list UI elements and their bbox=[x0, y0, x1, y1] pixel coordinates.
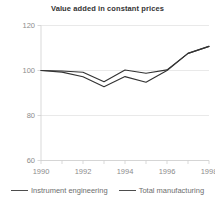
y-axis-tick-labels: 6080100120 bbox=[22, 21, 35, 165]
legend-label: Instrument engineering bbox=[31, 186, 108, 195]
series-line-total-manufacturing bbox=[41, 46, 209, 86]
legend-swatch-icon bbox=[11, 190, 28, 192]
y-tick-label: 100 bbox=[22, 66, 35, 75]
x-tick-label: 1998 bbox=[201, 167, 215, 176]
data-series bbox=[41, 46, 209, 86]
legend-item-instrument-engineering: Instrument engineering bbox=[11, 186, 108, 195]
chart-legend: Instrument engineering Total manufacturi… bbox=[0, 186, 215, 195]
x-tick-label: 1990 bbox=[33, 167, 50, 176]
legend-item-total-manufacturing: Total manufacturing bbox=[119, 186, 204, 195]
y-tick-label: 60 bbox=[27, 156, 35, 165]
axis-lines bbox=[41, 26, 209, 161]
x-tick-label: 1994 bbox=[117, 167, 134, 176]
chart-container: Value added in constant prices 608010012… bbox=[0, 0, 215, 201]
legend-label: Total manufacturing bbox=[139, 186, 204, 195]
x-axis-tick-labels: 19901992199419961998 bbox=[33, 167, 215, 176]
gridlines bbox=[41, 26, 209, 161]
x-tick-label: 1992 bbox=[75, 167, 92, 176]
axis-ticks bbox=[38, 26, 210, 165]
legend-swatch-icon bbox=[119, 190, 136, 192]
y-tick-label: 120 bbox=[22, 21, 35, 30]
y-tick-label: 80 bbox=[27, 111, 35, 120]
line-chart-plot: 6080100120 19901992199419961998 bbox=[0, 0, 215, 201]
x-tick-label: 1996 bbox=[159, 167, 176, 176]
